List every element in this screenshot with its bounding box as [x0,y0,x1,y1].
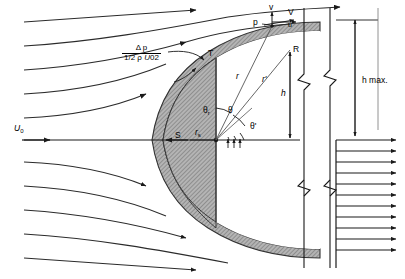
radius-r-prime-label: r' [262,75,266,84]
height-h-label: h [281,89,286,98]
velocity-profile [336,140,396,268]
diagram-svg [0,0,405,279]
freestream-velocity-label: U0 [14,124,23,134]
radius-rs-label: rs [195,128,201,138]
figure-canvas: U0 S T p R V u v r r' rs θ θr θ' h h max… [0,0,405,279]
pressure-coefficient-denominator: 1/2 ρ U02 [122,53,161,63]
transition-point-label: T [208,49,213,58]
theta-r-label: θr [203,106,210,116]
pressure-coefficient-label: Δ p 1/2 ρ U02 [122,44,161,63]
u-velocity-component-label: u [288,21,292,28]
radius-r-label: r [236,72,239,81]
surface-point-label: p [253,18,258,27]
theta-label: θ [228,106,233,115]
theta-prime-label: θ' [250,122,256,131]
stagnation-point-label: S [175,131,181,140]
resultant-velocity-label: V [288,8,294,17]
reference-point-label: R [293,45,299,54]
v-velocity-component-label: v [269,3,273,12]
pressure-coefficient-numerator: Δ p [122,44,161,53]
height-max-label: h max. [362,76,388,85]
